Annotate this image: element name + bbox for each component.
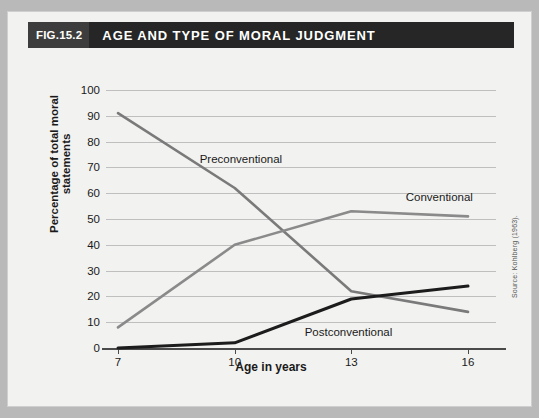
series-label-preconventional: Preconventional <box>200 153 282 165</box>
x-axis-tick <box>468 348 469 354</box>
x-axis-line <box>102 348 506 350</box>
y-tick-label: 20 <box>87 290 100 302</box>
y-tick-label: 10 <box>87 316 100 328</box>
chart-area: Percentage of total moral statements 010… <box>28 60 514 390</box>
series-label-postconventional: Postconventional <box>305 326 393 338</box>
x-axis-title: Age in years <box>28 360 514 374</box>
y-tick-label: 80 <box>87 136 100 148</box>
series-line-preconventional <box>118 113 468 312</box>
series-label-conventional: Conventional <box>406 191 473 203</box>
y-tick-label: 30 <box>87 265 100 277</box>
figure-number: FIG.15.2 <box>28 22 89 48</box>
y-tick-label: 0 <box>94 342 100 354</box>
figure-title-bar: FIG.15.2 AGE AND TYPE OF MORAL JUDGMENT <box>28 22 514 48</box>
source-note: Source: Kohlberg (1963). <box>511 215 518 298</box>
y-tick-label: 90 <box>87 110 100 122</box>
series-lines <box>106 90 496 348</box>
plot-region: 0102030405060708090100 7101316 Preconven… <box>106 90 496 348</box>
y-tick-label: 40 <box>87 239 100 251</box>
y-tick-label: 100 <box>81 84 100 96</box>
figure-panel: FIG.15.2 AGE AND TYPE OF MORAL JUDGMENT … <box>8 12 531 406</box>
y-tick-label: 60 <box>87 187 100 199</box>
figure-title: AGE AND TYPE OF MORAL JUDGMENT <box>89 28 375 43</box>
y-tick-label: 50 <box>87 213 100 225</box>
series-line-postconventional <box>118 286 468 348</box>
x-axis-tick <box>235 348 236 354</box>
x-axis-tick <box>351 348 352 354</box>
y-tick-label: 70 <box>87 161 100 173</box>
y-axis-title: Percentage of total moral statements <box>48 64 72 264</box>
series-line-conventional <box>118 211 468 327</box>
